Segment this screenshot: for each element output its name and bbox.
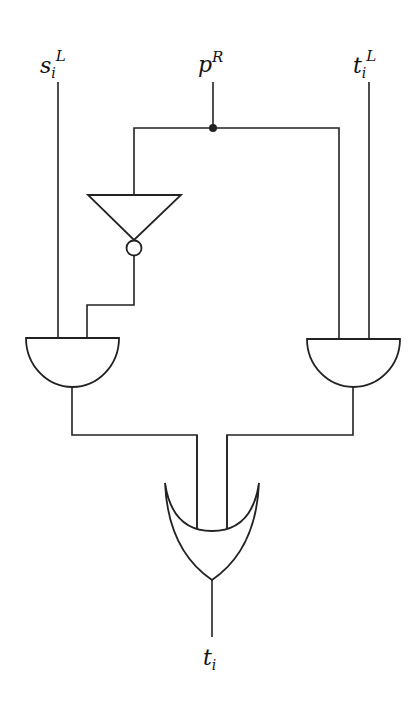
wire-p-bus	[134, 128, 339, 339]
label-t-i-L: tiL	[353, 47, 376, 81]
not-gate	[88, 195, 181, 240]
wire-not-to-and1	[87, 256, 134, 338]
and-gate-right	[307, 339, 400, 387]
or-gate	[165, 483, 259, 580]
label-s-i-L: siL	[40, 47, 66, 81]
and-gate-left	[26, 338, 119, 387]
wire-and2-to-or	[227, 387, 353, 530]
junction-dot	[209, 124, 217, 132]
not-bubble	[127, 241, 142, 256]
label-p-R: pR	[198, 48, 223, 77]
wire-and1-to-or	[72, 387, 197, 530]
label-t-i-output: ti	[203, 645, 216, 673]
circuit-diagram: siL pR tiL ti	[0, 0, 420, 701]
